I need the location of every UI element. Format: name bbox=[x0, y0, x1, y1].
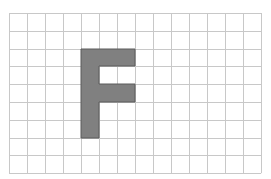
letter-f-shape bbox=[81, 49, 135, 138]
grid-figure bbox=[0, 0, 271, 179]
